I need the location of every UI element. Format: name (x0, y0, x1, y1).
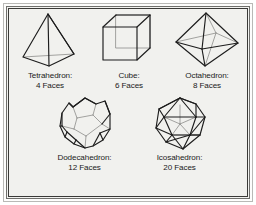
solid-dodecahedron: Dodecahedron: 12 Faces (37, 95, 132, 172)
octahedron-faces: 8 Faces (167, 81, 247, 91)
cube-diagram (98, 9, 160, 71)
solid-tetrahedron: Tetrahedron: 4 Faces (9, 9, 91, 90)
dodecahedron-name: Dodecahedron: (37, 153, 132, 163)
tetrahedron-diagram (14, 9, 86, 71)
octahedron-diagram (172, 9, 242, 71)
dodecahedron-diagram (55, 95, 115, 153)
icosahedron-diagram (150, 95, 210, 153)
platonic-solids-figure: Tetrahedron: 4 Faces (0, 0, 256, 205)
solids-stage: Tetrahedron: 4 Faces (9, 9, 247, 196)
solid-cube: Cube: 6 Faces (92, 9, 166, 90)
cube-name: Cube: (92, 71, 166, 81)
tetrahedron-name: Tetrahedron: (9, 71, 91, 81)
tetrahedron-faces: 4 Faces (9, 81, 91, 91)
solid-octahedron: Octahedron: 8 Faces (167, 9, 247, 90)
icosahedron-faces: 20 Faces (132, 163, 227, 173)
solid-icosahedron: Icosahedron: 20 Faces (132, 95, 227, 172)
octahedron-name: Octahedron: (167, 71, 247, 81)
dodecahedron-faces: 12 Faces (37, 163, 132, 173)
icosahedron-name: Icosahedron: (132, 153, 227, 163)
cube-faces: 6 Faces (92, 81, 166, 91)
